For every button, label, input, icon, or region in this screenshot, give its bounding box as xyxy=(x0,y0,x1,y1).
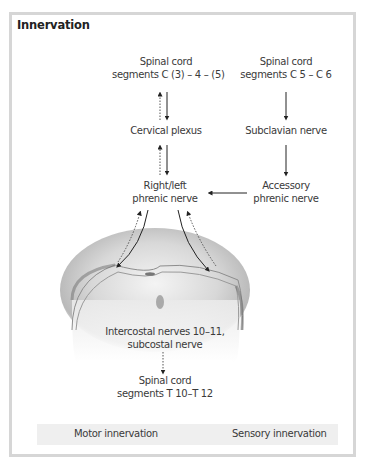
legend: Motor innervation Sensory innervation xyxy=(37,424,338,445)
node-phrenic-nerve: Right/left phrenic nerve xyxy=(125,180,205,205)
node-accessory-phrenic-nerve: Accessory phrenic nerve xyxy=(246,180,326,205)
node-intercostal-nerves: Intercostal nerves 10–11, subcostal nerv… xyxy=(100,326,230,351)
node-cervical-plexus: Cervical plexus xyxy=(118,125,214,138)
node-spinal-cord-c5-c6: Spinal cord segments C 5 – C 6 xyxy=(240,56,332,81)
legend-motor-label: Motor innervation xyxy=(74,428,158,439)
legend-sensory-label: Sensory innervation xyxy=(232,428,327,439)
node-spinal-cord-t10-t12: Spinal cord segments T 10–T 12 xyxy=(115,375,215,400)
node-subclavian-nerve: Subclavian nerve xyxy=(240,125,332,138)
node-spinal-cord-c3-c5: Spinal cord segments C (3) – 4 – (5) xyxy=(112,56,220,81)
